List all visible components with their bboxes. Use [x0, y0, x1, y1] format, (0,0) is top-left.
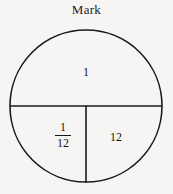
slice-label-lower-left: 1 12	[42, 121, 84, 150]
fraction-denominator: 12	[55, 137, 71, 150]
slice-label-upper-half: 1	[66, 66, 106, 79]
pie-chart-area	[0, 0, 173, 194]
pie-chart-svg	[0, 0, 173, 194]
fraction-one-twelfth: 1 12	[55, 121, 71, 150]
slice-label-lower-right: 12	[98, 131, 134, 144]
fraction-numerator: 1	[55, 121, 71, 134]
pie-chart-figure: Mark 1 1 12 12	[0, 0, 173, 194]
